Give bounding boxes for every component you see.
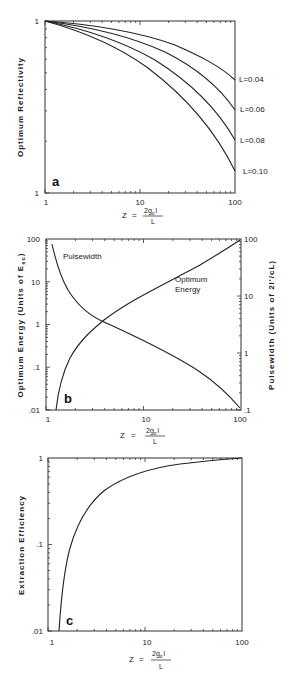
panel-b-y-ticks: [46, 241, 241, 410]
panel-c-frame: [48, 458, 242, 631]
svg-text:=: =: [131, 431, 136, 440]
panel-b-frame: [46, 239, 241, 410]
annot-pulsewidth: Pulsewidth: [63, 252, 102, 261]
panel-a-xtick-1: 1: [44, 198, 49, 207]
panel-b-ytick-0.1: .1: [33, 363, 40, 372]
panel-b-xtick-10: 10: [142, 415, 151, 424]
panel-a: 1 1 1 10 100 Optimum Reflectivity L=0.04…: [16, 17, 268, 225]
panel-b-xtick-1: 1: [46, 415, 51, 424]
panel-b-ytick-right-100: 100: [244, 235, 258, 244]
svg-text:=: =: [139, 655, 144, 664]
xlabel-eq: =: [132, 211, 137, 220]
label-L-0.04: L=0.04: [239, 75, 264, 84]
panel-c-ytick-1: 1: [39, 454, 44, 463]
panel-c-ylabel: Extraction Efficiency: [17, 495, 26, 595]
panel-a-letter: a: [52, 174, 60, 189]
panel-a-ylabel: Optimum Reflectivity: [16, 57, 25, 157]
panel-a-xlabel: Z = 2gol L: [122, 207, 163, 225]
panel-c-xtick-100: 100: [235, 638, 249, 647]
svg-text:2gol: 2gol: [146, 427, 160, 436]
panel-b-ytick-100: 100: [27, 235, 41, 244]
label-L-0.10: L=0.10: [243, 167, 268, 176]
annot-optimum: Optimum: [175, 275, 208, 284]
panel-b-letter: b: [64, 391, 72, 406]
panel-a-xtick-10: 10: [136, 198, 145, 207]
panel-c-ytick-0.01: .01: [32, 627, 44, 636]
svg-text:2gol: 2gol: [152, 650, 166, 659]
panel-b-x-ticks: [46, 239, 237, 410]
panel-b-ytick-right-1: 1: [244, 349, 249, 358]
panel-c-y-ticks: [48, 462, 52, 631]
panel-c-xlabel: Z = 2gol L: [129, 650, 171, 670]
panel-b-ytick-right-10: 10: [244, 292, 253, 301]
xlabel-z: Z: [122, 211, 127, 220]
panel-b-xlabel: Z = 2gol L: [120, 427, 165, 445]
svg-text:Z: Z: [120, 431, 125, 440]
panel-b-ytick-right-0.1: .1: [244, 406, 251, 415]
svg-text:Z: Z: [129, 655, 134, 664]
panel-b: 100 10 1 .1 .01 100 10 1 .1 1 10 100 Opt…: [16, 235, 276, 445]
panel-a-ytick-top: 1: [35, 17, 40, 26]
curve-optimum-energy: [56, 240, 240, 410]
panel-b-xtick-100: 100: [233, 415, 247, 424]
xlabel-numerator: 2gol: [144, 207, 158, 216]
curve-L-0.10: [45, 21, 235, 171]
svg-text:L: L: [153, 438, 157, 445]
panel-b-ytick-1: 1: [36, 320, 41, 329]
panel-b-ylabel-right: Pulsewidth (Units of 2l'/cL): [267, 260, 276, 390]
panel-a-x-ticks: [45, 21, 231, 193]
curve-pulsewidth: [52, 244, 240, 408]
panel-c-xtick-10: 10: [143, 638, 152, 647]
panel-b-ylabel-left: Optimum Energy (Units of Esc): [16, 252, 26, 397]
label-L-0.08: L=0.08: [240, 136, 265, 145]
curve-extraction-efficiency: [59, 458, 242, 631]
curve-L-0.08: [45, 21, 235, 140]
xlabel-denominator: L: [151, 218, 155, 225]
panel-a-ytick-bottom: 1: [35, 189, 40, 198]
panel-b-ytick-0.01: .01: [29, 406, 41, 415]
panel-c-x-ticks: [48, 458, 238, 631]
panel-c-letter: c: [66, 613, 73, 628]
svg-text:L: L: [159, 663, 163, 670]
panel-a-frame: [45, 21, 235, 193]
label-L-0.06: L=0.06: [240, 105, 265, 114]
panel-c-ytick-0.1: .1: [36, 540, 43, 549]
annot-energy: Energy: [175, 285, 200, 294]
panel-c: 1 .1 .01 1 10 100 Extraction Efficiency …: [17, 454, 249, 670]
panel-b-ytick-10: 10: [31, 278, 40, 287]
figure-canvas: 1 1 1 10 100 Optimum Reflectivity L=0.04…: [0, 0, 289, 681]
panel-a-y-ticks: [45, 29, 49, 193]
panel-a-xtick-100: 100: [228, 198, 242, 207]
panel-c-xtick-1: 1: [50, 638, 55, 647]
